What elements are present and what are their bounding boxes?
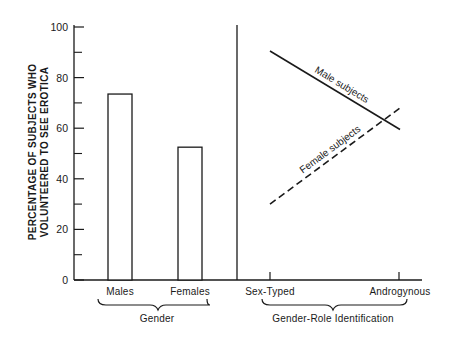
chart: PERCENTAGE OF SUBJECTS WHO VOLUNTEERED T…	[0, 0, 455, 339]
y-tick-label: 100	[50, 21, 68, 33]
category-label-sex-typed: Sex-Typed	[245, 286, 295, 297]
series-line-female	[270, 108, 400, 204]
group-label-gender-role: Gender-Role Identification	[272, 313, 393, 324]
y-tick-label: 40	[56, 173, 68, 185]
category-label-females: Females	[170, 286, 210, 297]
category-label-androgynous: Androgynous	[369, 286, 430, 297]
y-axis-label: PERCENTAGE OF SUBJECTS WHO VOLUNTEERED T…	[27, 64, 50, 241]
y-axis-label-line-2: VOLUNTEERED TO SEE EROTICA	[39, 67, 50, 237]
brace-gender	[98, 299, 210, 310]
y-tick-label: 60	[56, 122, 68, 134]
y-tick-label: 20	[56, 223, 68, 235]
y-axis-ticks: 020406080100	[50, 21, 84, 286]
series-label-male: Male subjects	[313, 64, 371, 105]
category-label-males: Males	[106, 286, 134, 297]
y-tick-label: 0	[62, 274, 68, 286]
brace-gender-role	[262, 299, 407, 310]
bar-females	[178, 147, 202, 280]
y-tick-label: 80	[56, 72, 68, 84]
y-axis-label-line-1: PERCENTAGE OF SUBJECTS WHO	[27, 64, 38, 241]
series-label-female: Female subjects	[297, 123, 362, 175]
bar-panel	[108, 94, 202, 280]
group-label-gender: Gender	[140, 313, 175, 324]
line-panel: Male subjectsFemale subjects	[270, 51, 400, 280]
series-line-male	[270, 51, 400, 129]
bar-males	[108, 94, 132, 280]
